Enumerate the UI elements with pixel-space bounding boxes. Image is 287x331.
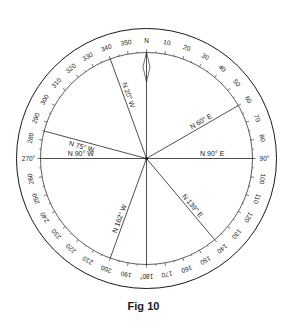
tick-mark <box>128 263 129 266</box>
bearing-label: N 90° W <box>68 150 95 157</box>
tick-mark <box>85 70 86 71</box>
tick-mark <box>207 245 208 246</box>
degree-label: 130 <box>230 228 243 241</box>
bearing-line <box>147 159 215 240</box>
degree-label: 160 <box>180 264 193 274</box>
degree-label: 270° <box>22 155 36 162</box>
tick-mark <box>251 177 254 178</box>
degree-label: 20 <box>182 43 192 52</box>
tick-mark <box>39 140 42 141</box>
tick-mark <box>233 219 234 220</box>
tick-mark <box>58 97 59 98</box>
degree-label: 290 <box>30 111 40 124</box>
degree-label: 200 <box>99 264 112 274</box>
tick-mark <box>246 121 249 122</box>
tick-mark <box>238 212 241 214</box>
tick-mark <box>58 219 59 220</box>
tick-mark <box>251 140 254 141</box>
bearing-line <box>110 59 146 159</box>
degree-label: 240 <box>38 211 50 224</box>
tick-mark <box>44 121 47 122</box>
tick-mark <box>85 245 86 246</box>
tick-mark <box>221 233 222 234</box>
tick-mark <box>63 227 65 229</box>
bearing-label: N 162° W <box>111 203 128 234</box>
degree-label: 80 <box>259 134 267 143</box>
degree-label: 330 <box>81 50 94 62</box>
degree-label: 220 <box>64 242 77 255</box>
tick-mark <box>101 255 102 256</box>
tick-mark <box>63 88 65 90</box>
degree-label: 100 <box>258 173 267 185</box>
tick-mark <box>128 51 129 54</box>
degree-label: 280 <box>26 132 35 144</box>
bearing-line <box>147 106 239 159</box>
tick-mark <box>200 250 202 253</box>
degree-label: 350 <box>120 38 132 47</box>
tick-mark <box>92 250 94 253</box>
degree-label: 150 <box>199 255 212 267</box>
tick-mark <box>52 104 55 106</box>
degree-label: 260 <box>26 173 35 185</box>
degree-label: 120 <box>243 211 255 224</box>
degree-label: 250 <box>30 192 40 205</box>
degree-label: 310 <box>50 76 63 89</box>
tick-mark <box>70 82 71 83</box>
bearing-label: N 60° E <box>189 112 214 130</box>
tick-mark <box>228 88 230 90</box>
tick-mark <box>243 203 244 204</box>
tick-mark <box>246 195 249 196</box>
degree-label: 230 <box>50 228 63 241</box>
degree-label: 40 <box>217 63 227 73</box>
degree-label: 180° <box>139 273 153 280</box>
degree-label: 60 <box>244 95 254 105</box>
tick-mark <box>207 70 208 71</box>
degree-label: 170 <box>161 270 173 279</box>
tick-mark <box>183 258 184 261</box>
degree-label: 190 <box>120 270 132 279</box>
tick-mark <box>39 177 42 178</box>
tick-mark <box>109 258 110 261</box>
degree-label: 90° <box>260 155 270 162</box>
degree-label: 210 <box>81 255 94 267</box>
degree-label: 30 <box>201 51 211 61</box>
tick-mark <box>165 51 166 54</box>
degree-label: 110 <box>252 193 262 205</box>
bearing-line <box>44 131 146 158</box>
compass-diagram: N102030405060708090°10011012013014015016… <box>0 0 287 331</box>
center-point <box>145 157 148 160</box>
degree-label: 320 <box>64 62 77 75</box>
tick-mark <box>165 263 166 266</box>
tick-mark <box>49 113 50 114</box>
tick-mark <box>243 113 244 114</box>
tick-mark <box>76 75 78 77</box>
tick-mark <box>200 64 202 67</box>
tick-mark <box>52 212 55 214</box>
tick-mark <box>76 240 78 242</box>
tick-mark <box>70 233 71 234</box>
tick-mark <box>109 56 110 59</box>
tick-mark <box>191 61 192 62</box>
bearing-label: N 139° E <box>181 193 205 219</box>
tick-mark <box>221 82 222 83</box>
degree-label: 10 <box>163 38 172 46</box>
tick-mark <box>183 56 184 59</box>
degree-label: 140 <box>216 243 229 256</box>
degree-label: N <box>144 37 149 44</box>
tick-mark <box>49 203 50 204</box>
tick-mark <box>233 97 234 98</box>
tick-mark <box>215 75 217 77</box>
bearing-line <box>110 159 146 259</box>
figure-caption: Fig 10 <box>0 300 287 312</box>
degree-label: 70 <box>253 114 262 124</box>
tick-mark <box>92 64 94 67</box>
tick-mark <box>191 255 192 256</box>
tick-mark <box>228 227 230 229</box>
degree-label: 50 <box>232 78 242 88</box>
degree-label: 340 <box>100 42 113 52</box>
tick-mark <box>238 104 241 106</box>
tick-mark <box>44 195 47 196</box>
bearing-label: N 90° E <box>200 150 225 157</box>
tick-mark <box>101 61 102 62</box>
tick-mark <box>215 240 217 242</box>
